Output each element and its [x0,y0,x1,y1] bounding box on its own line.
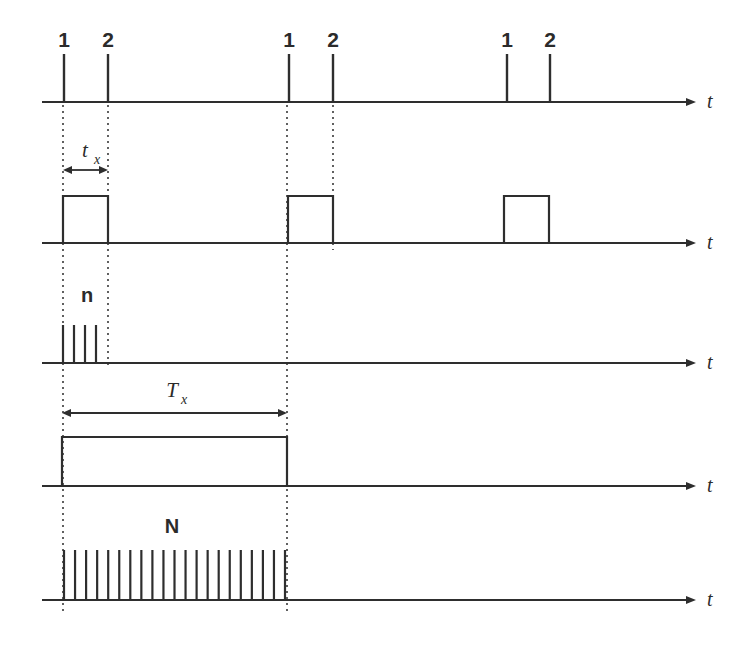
count-label-n: n [81,284,93,306]
rect-pulse-3 [504,196,549,243]
impulse-label-3: 1 [283,28,295,51]
signal-row-trigger-pulses: t121212 [42,28,713,112]
timing-diagram-canvas: t121212ttxtntTxtN [0,0,748,649]
signal-row-gate-pulse-Tx: tTx [42,378,713,496]
dimension-subscript-x: x [93,152,101,167]
axis-label-t-burst-N: t [707,588,713,610]
impulse-label-2: 2 [102,28,114,51]
rect-pulse-2 [288,196,333,243]
axis-label-t-gate-pulse-Tx: t [707,474,713,496]
signal-rows: t121212ttxtntTxtN [42,28,713,610]
impulse-label-1: 1 [58,28,70,51]
impulse-label-6: 2 [544,28,556,51]
axis-label-t-trigger-pulses: t [707,90,713,112]
rect-pulse-1 [63,196,108,243]
alignment-guides [63,105,333,615]
timing-diagram-figure: t121212ttxtntTxtN [0,0,748,649]
signal-row-burst-N: tN [42,515,713,610]
dimension-label-t: t [82,138,89,162]
axis-label-t-gate-pulse-tx: t [707,231,713,253]
signal-row-burst-n: tn [42,284,713,373]
rect-pulse-1 [62,437,287,486]
dimension-subscript-x: x [180,392,188,407]
count-label-N: N [165,515,179,537]
signal-row-gate-pulse-tx: ttx [42,138,713,253]
axis-label-t-burst-n: t [707,351,713,373]
impulse-label-4: 2 [327,28,339,51]
impulse-label-5: 1 [501,28,513,51]
dimension-label-T: T [166,378,179,402]
